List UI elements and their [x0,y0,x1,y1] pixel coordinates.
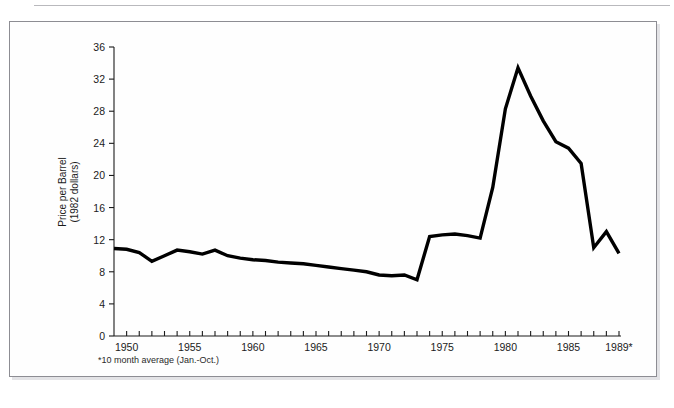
x-tick-label: 1985 [557,341,581,353]
y-tick-label: 28 [93,105,105,117]
y-tick-label: 20 [93,169,105,181]
x-axis: 195019551960196519701975198019851989* [114,331,633,353]
line-chart: 04812162024283236 1950195519601965197019… [0,0,674,408]
y-axis-title-line-2: (1982 dollars) [69,161,80,222]
x-tick-label: 1989* [605,341,632,353]
y-tick-label: 12 [93,234,105,246]
y-tick-label: 24 [93,137,105,149]
y-axis-title-line-1: Price per Barrel [57,157,68,226]
x-tick-label: 1970 [367,341,391,353]
data-series [114,68,619,280]
y-axis-title: Price per Barrel(1982 dollars) [57,157,80,226]
x-tick-label: 1965 [304,341,328,353]
y-tick-label: 4 [99,298,105,310]
y-axis: 04812162024283236 [93,41,114,342]
x-tick-label: 1960 [241,341,265,353]
y-tick-label: 0 [99,330,105,342]
y-tick-label: 8 [99,266,105,278]
y-tick-label: 36 [93,41,105,53]
chart-footnote: *10 month average (Jan.-Oct.) [98,355,219,365]
series-line-price-per-barrel [114,68,619,280]
y-tick-label: 16 [93,202,105,214]
x-tick-label: 1975 [431,341,455,353]
x-tick-label: 1950 [115,341,139,353]
footnote-text: *10 month average (Jan.-Oct.) [98,355,219,365]
y-tick-label: 32 [93,73,105,85]
x-tick-label: 1980 [494,341,518,353]
x-tick-label: 1955 [178,341,202,353]
